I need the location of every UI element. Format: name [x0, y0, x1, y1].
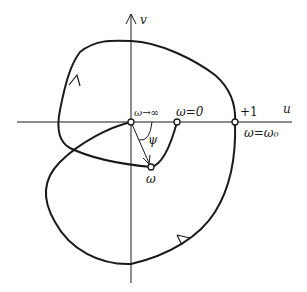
- u-axis-label: u: [283, 102, 291, 116]
- point-origin: [128, 119, 134, 125]
- point-plus-one: [232, 119, 238, 125]
- v-axis-label: v: [140, 13, 147, 27]
- point-omega: [148, 164, 154, 170]
- direction-arrow-icon: [69, 75, 80, 86]
- vector-line: [131, 122, 149, 163]
- label-psi: ψ: [148, 133, 158, 147]
- nyquist-diagram: v u ω→∞ ω=0 +1 ω=ω₀ ω ψ: [0, 0, 307, 292]
- label-omega-infinity: ω→∞: [134, 107, 159, 118]
- nyquist-curve-upper: [58, 41, 235, 167]
- point-omega-zero: [174, 119, 180, 125]
- label-omega-omega0: ω=ω₀: [244, 126, 279, 140]
- label-omega-zero: ω=0: [176, 105, 204, 119]
- label-omega: ω: [146, 172, 156, 186]
- label-plus-one: +1: [240, 105, 258, 119]
